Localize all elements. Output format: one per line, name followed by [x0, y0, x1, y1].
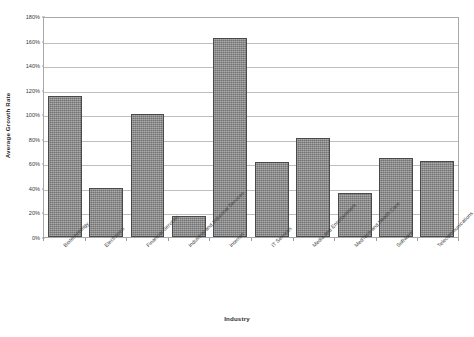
- x-label-slot: Electronics: [85, 242, 127, 322]
- y-axis-tick-label: 140%: [16, 63, 40, 69]
- x-label-slot: Media and Entertainment: [293, 242, 335, 322]
- bar-slot: [251, 18, 292, 237]
- chart-page: Average Growth Rate 0%20%40%60%80%100%12…: [0, 0, 474, 337]
- x-axis-category-labels: BiotechnologyElectronicsFinancial Servic…: [43, 242, 459, 322]
- y-axis-tick-label: 160%: [16, 39, 40, 45]
- x-label-slot: Financial Services: [126, 242, 168, 322]
- bar-slot: [168, 18, 209, 237]
- x-label-slot: Internet: [209, 242, 251, 322]
- x-label-slot: IT Services: [251, 242, 293, 322]
- y-axis-tick-label: 120%: [16, 88, 40, 94]
- bar-slot: [44, 18, 85, 237]
- y-axis-tick-labels: 0%20%40%60%80%100%120%140%160%180%: [18, 17, 42, 238]
- y-axis-tick-label: 180%: [16, 14, 40, 20]
- bar-slot: [417, 18, 458, 237]
- bar-slot: [292, 18, 333, 237]
- y-axis-tick-label: 40%: [16, 186, 40, 192]
- x-label-slot: Software: [376, 242, 418, 322]
- bar[interactable]: [379, 158, 413, 237]
- bar-slot: [85, 18, 126, 237]
- bar[interactable]: [48, 96, 82, 237]
- bar[interactable]: [296, 138, 330, 237]
- x-label-slot: Industrial and Industrial Services: [168, 242, 210, 322]
- y-axis-title-label: Average Growth Rate: [5, 92, 12, 158]
- y-axis-tick-label: 60%: [16, 161, 40, 167]
- x-label-slot: MedTech and Health Care: [334, 242, 376, 322]
- bar[interactable]: [131, 114, 165, 237]
- bar-slot: [127, 18, 168, 237]
- y-axis-tick-label: 100%: [16, 112, 40, 118]
- y-axis-tick-label: 0%: [16, 235, 40, 241]
- x-axis-title: Industry: [0, 315, 474, 322]
- bar[interactable]: [255, 162, 289, 237]
- x-label-slot: Telecommunications: [417, 242, 459, 322]
- x-label-slot: Biotechnology: [43, 242, 85, 322]
- y-axis-title: Average Growth Rate: [0, 60, 16, 190]
- y-axis-tick-label: 80%: [16, 137, 40, 143]
- bar[interactable]: [420, 161, 454, 237]
- y-axis-tick-label: 20%: [16, 210, 40, 216]
